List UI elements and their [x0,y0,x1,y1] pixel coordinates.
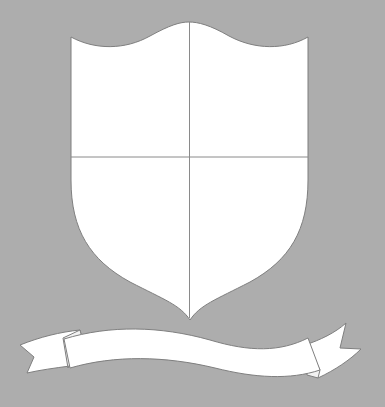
heraldry-svg [0,0,385,407]
shield [71,22,308,320]
drawing-canvas [0,0,385,407]
banner-ribbon [20,323,361,378]
ribbon-main-band [64,329,320,377]
